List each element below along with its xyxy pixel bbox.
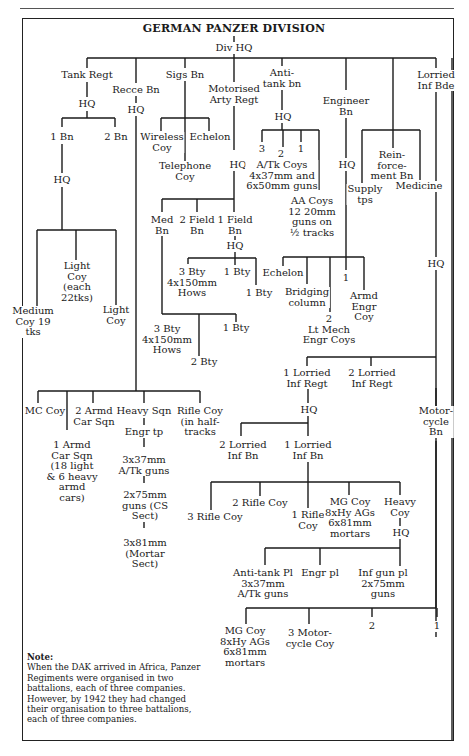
inf-1-lorried-bn: 1 Lorried Inf Bn <box>283 440 332 461</box>
recce-at-guns: 3x37mm A/Tk guns <box>118 455 171 476</box>
note-box: Note: When the DAK arrived in Africa, Pa… <box>27 652 203 725</box>
tank-light-coy-each: Light Coy (each 22tks) <box>60 261 94 303</box>
inf-3-rifle-coy: 3 Rifle Coy <box>186 512 243 523</box>
tank-2-bn: 2 Bn <box>103 132 128 143</box>
engr-armd-coy: Armd Engr Coy <box>349 291 379 323</box>
tank-regt-hq: HQ <box>78 99 97 110</box>
moto-coy-1: 1 <box>433 621 441 632</box>
inf-gun-pl: Inf gun pl 2x75mm guns <box>357 568 408 600</box>
at-coys-detail: A/Tk Coys 4x37mm and 6x50mm guns <box>245 160 318 192</box>
inf-heavy-coy: Heavy Coy <box>383 497 417 518</box>
arty-field-1-bty-a: 1 Bty <box>223 267 252 278</box>
at-coy-3: 3 <box>258 144 266 155</box>
inf-1-rifle-coy: 1 Rifle Coy <box>291 510 326 531</box>
recce-hq: HQ <box>127 105 146 116</box>
motorcycle-bn: Motor- cycle Bn <box>418 406 454 438</box>
sigs-bn: Sigs Bn <box>165 70 206 81</box>
medicine: Medicine <box>395 181 444 192</box>
note-heading: Note: <box>27 652 203 662</box>
recce-engr-tp: Engr tp <box>124 427 165 438</box>
moto-3-coy: 3 Motor- cycle Coy <box>285 628 335 649</box>
recce-mc-coy: MC Coy <box>24 406 66 417</box>
engr-1: 1 <box>342 273 350 284</box>
sigs-wireless-coy: Wireless Coy <box>139 132 184 153</box>
tank-medium-coy: Medium Coy 19 tks <box>11 306 55 338</box>
tank-regt: Tank Regt <box>60 70 113 81</box>
tank-light-coy: Light Coy <box>102 305 131 326</box>
arty-med-2-bty: 2 Bty <box>190 357 219 368</box>
note-text: When the DAK arrived in Africa, Panzer R… <box>27 662 203 724</box>
supply-tps: Supply tps <box>347 184 384 205</box>
sigs-echelon: Echelon <box>189 132 232 143</box>
recce-rifle-coy: Rifle Coy (in half- tracks <box>176 406 224 438</box>
arty-2-field-bn: 2 Field Bn <box>178 215 215 236</box>
at-coy-2: 2 <box>277 149 285 160</box>
div-hq: Div HQ <box>215 43 254 54</box>
inf-bde-hq: HQ <box>427 259 446 270</box>
tank-bn-hq: HQ <box>53 175 72 186</box>
chart-title: GERMAN PANZER DIVISION <box>143 22 325 35</box>
moto-coy-2: 2 <box>368 621 376 632</box>
arty-field-hq: HQ <box>226 241 245 252</box>
anti-tank-bn: Anti- tank bn <box>262 68 303 89</box>
arty-field-3-bty: 3 Bty 4x150mm Hows <box>166 267 218 299</box>
aa-coys: AA Coys 12 20mm guns on ½ tracks <box>287 196 337 238</box>
inf-regt-hq: HQ <box>300 405 319 416</box>
inf-anti-tank-pl: Anti-tank Pl 3x37mm A/Tk guns <box>232 568 294 600</box>
engr-bridging-column: Bridging column <box>284 287 330 308</box>
at-coy-1: 1 <box>297 144 305 155</box>
recce-heavy-sqn: Heavy Sqn <box>116 406 173 417</box>
inf-1-lorried-regt: 1 Lorried Inf Regt <box>282 368 331 389</box>
moto-mg-coy: MG Coy 8xHy AGs 6x81mm mortars <box>219 626 271 668</box>
arty-regt: Motorised Arty Regt <box>207 84 261 105</box>
recce-1-armd-car-sqn: 1 Armd Car Sqn (18 light & 6 heavy armd … <box>45 440 98 503</box>
recce-mortar-sect: 3x81mm (Mortar Sect) <box>122 538 168 570</box>
recce-bn: Recce Bn <box>111 85 161 96</box>
inf-heavy-coy-hq: HQ <box>392 528 411 539</box>
arty-med-bn: Med Bn <box>150 215 175 236</box>
recce-2-armd-car-sqn: 2 Armd Car Sqn <box>72 406 115 427</box>
sigs-telephone-coy: Telephone Coy <box>158 161 212 182</box>
engr-hq: HQ <box>338 160 357 171</box>
arty-med-1-bty: 1 Bty <box>222 323 251 334</box>
lorried-inf-bde: Lorried Inf Bde <box>416 70 456 91</box>
arty-1-field-bn: 1 Field Bn <box>216 215 253 236</box>
engr-echelon: Echelon <box>262 268 305 279</box>
reinforcement-bn: Rein- force- ment Bn <box>370 150 415 182</box>
recce-cs-guns: 2x75mm guns (CS Sect) <box>121 490 169 522</box>
engineer-bn: Engineer Bn <box>322 96 370 117</box>
inf-engr-pl: Engr pl <box>300 568 340 579</box>
inf-2-lorried-regt: 2 Lorried Inf Regt <box>347 368 396 389</box>
arty-med-3-bty: 3 Bty 4x150mm Hows <box>141 324 193 356</box>
arty-field-1-bty-b: 1 Bty <box>245 288 274 299</box>
tank-1-bn: 1 Bn <box>49 132 74 143</box>
inf-mg-coy: MG Coy 8xHy AGs 6x81mm mortars <box>324 497 376 539</box>
at-bn-hq: HQ <box>274 112 293 123</box>
inf-2-lorried-bn: 2 Lorried Inf Bn <box>218 440 267 461</box>
inf-2-rifle-coy: 2 Rifle Coy <box>231 498 288 509</box>
